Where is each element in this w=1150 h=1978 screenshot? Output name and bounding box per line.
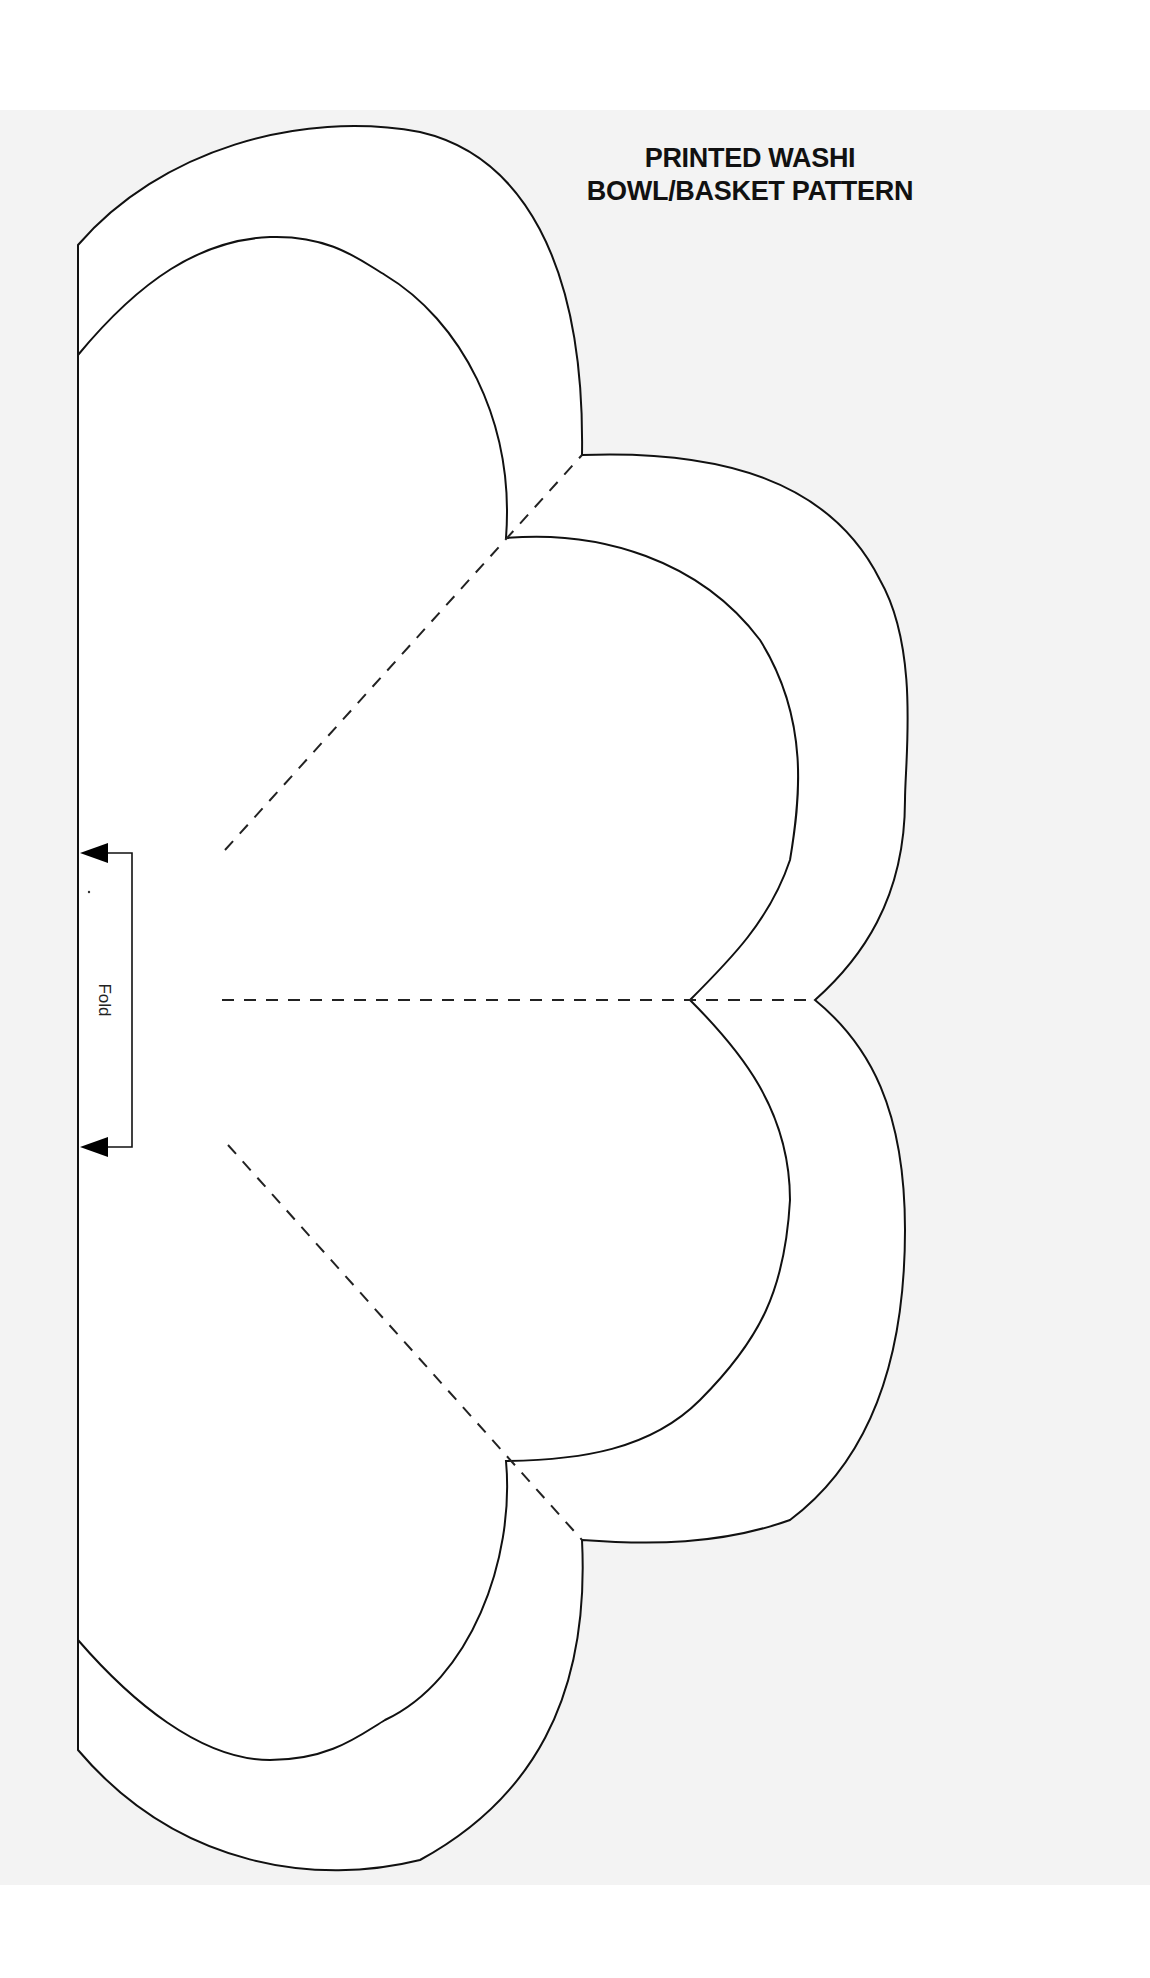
fold-label: Fold [94, 983, 114, 1016]
pattern-diagram [0, 0, 1150, 1978]
stray-mark [88, 891, 90, 893]
